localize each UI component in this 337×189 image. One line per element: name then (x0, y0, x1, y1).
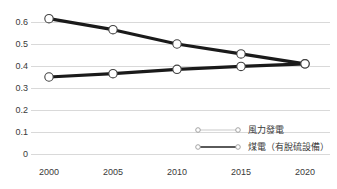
ytick-label-0: 0 (2, 149, 28, 159)
xtick-label-2005: 2005 (93, 167, 133, 177)
data-point-marker (109, 26, 117, 34)
data-point-marker (45, 15, 53, 23)
ytick-label-0.1: 0.1 (2, 127, 28, 137)
legend-mark-group (196, 128, 241, 150)
data-point-marker (173, 65, 181, 73)
data-point-marker (173, 40, 181, 48)
xtick-label-2020: 2020 (285, 167, 325, 177)
legend-label-coal: 煤電（有脫硫設備） (248, 142, 329, 153)
data-point-marker (301, 60, 309, 68)
ytick-label-0.5: 0.5 (2, 39, 28, 49)
legend-mark-wind-endpoint (236, 128, 241, 133)
ytick-label-0.3: 0.3 (2, 83, 28, 93)
legend-mark-coal-endpoint (236, 145, 241, 150)
legend-mark-wind-endpoint (196, 128, 201, 133)
xtick-label-2015: 2015 (221, 167, 261, 177)
xtick-label-2010: 2010 (157, 167, 197, 177)
data-point-marker (109, 70, 117, 78)
line-chart: 0.6 0.5 0.4 0.3 0.2 0.1 0 2000 2005 2010… (0, 0, 337, 189)
data-point-marker (237, 62, 245, 70)
data-point-marker (237, 50, 245, 58)
ytick-label-0.2: 0.2 (2, 105, 28, 115)
ytick-label-0.4: 0.4 (2, 61, 28, 71)
data-point-marker (45, 73, 53, 81)
chart-plot-area (0, 0, 337, 189)
xtick-label-2000: 2000 (29, 167, 69, 177)
ytick-label-0.6: 0.6 (2, 17, 28, 27)
legend-label-wind: 風力發電 (248, 125, 284, 136)
legend-mark-coal-endpoint (196, 145, 201, 150)
